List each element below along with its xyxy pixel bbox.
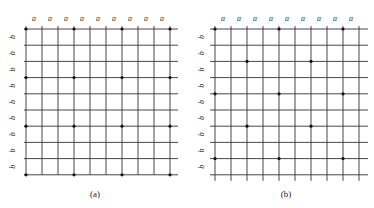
row-spacing-label: b	[8, 132, 17, 136]
lattice-point-dot	[72, 173, 75, 176]
lattice-point-dot	[120, 173, 123, 176]
column-spacing-label: a	[349, 14, 353, 23]
lattice-point-dot	[277, 157, 280, 160]
row-spacing-label: b	[8, 116, 17, 120]
row-spacing-label: b	[8, 35, 17, 39]
column-spacing-label: a	[112, 14, 116, 23]
column-spacing-label: a	[128, 14, 132, 23]
column-spacing-label: a	[317, 14, 321, 23]
column-spacing-label: a	[221, 14, 225, 23]
caption-a: (a)	[90, 189, 100, 199]
panel-a-lattice: aaaaaaaaabbbbbbbbb	[8, 14, 178, 176]
column-spacing-label: a	[32, 14, 36, 23]
row-spacing-label: b	[197, 68, 206, 72]
row-spacing-label: b	[197, 149, 206, 153]
lattice-point-dot	[72, 27, 75, 30]
column-spacing-label: a	[160, 14, 164, 23]
lattice-point-dot	[277, 92, 280, 95]
lattice-point-dot	[24, 125, 27, 128]
column-spacing-label: a	[237, 14, 241, 23]
column-spacing-label: a	[80, 14, 84, 23]
lattice-point-dot	[120, 76, 123, 79]
lattice-point-dot	[168, 76, 171, 79]
row-spacing-label: b	[8, 84, 17, 88]
column-spacing-label: a	[253, 14, 257, 23]
lattice-point-dot	[24, 173, 27, 176]
row-spacing-label: b	[8, 149, 17, 153]
lattice-point-dot	[341, 92, 344, 95]
row-spacing-label: b	[197, 100, 206, 104]
column-spacing-label: a	[144, 14, 148, 23]
column-spacing-label: a	[64, 14, 68, 23]
row-spacing-label: b	[197, 165, 206, 169]
lattice-point-dot	[309, 60, 312, 63]
lattice-point-dot	[168, 173, 171, 176]
lattice-point-dot	[120, 27, 123, 30]
lattice-point-dot	[309, 125, 312, 128]
lattice-point-dot	[213, 27, 216, 30]
lattice-point-dot	[245, 60, 248, 63]
column-spacing-label: a	[333, 14, 337, 23]
lattice-point-dot	[168, 125, 171, 128]
caption-b: (b)	[281, 189, 292, 199]
lattice-point-dot	[341, 27, 344, 30]
column-spacing-label: a	[48, 14, 52, 23]
column-spacing-label: a	[96, 14, 100, 23]
lattice-point-dot	[120, 125, 123, 128]
lattice-point-dot	[213, 92, 216, 95]
panel-b-lattice: aaaaaaaaabbbbbbbbb	[197, 14, 368, 181]
lattice-point-dot	[24, 76, 27, 79]
lattice-point-dot	[245, 125, 248, 128]
row-spacing-label: b	[197, 35, 206, 39]
column-spacing-label: a	[269, 14, 273, 23]
row-spacing-label: b	[197, 51, 206, 55]
row-spacing-label: b	[197, 132, 206, 136]
row-spacing-label: b	[197, 84, 206, 88]
lattice-point-dot	[168, 27, 171, 30]
row-spacing-label: b	[8, 165, 17, 169]
lattice-point-dot	[341, 157, 344, 160]
column-spacing-label: a	[285, 14, 289, 23]
lattice-point-dot	[213, 157, 216, 160]
lattice-point-dot	[72, 76, 75, 79]
row-spacing-label: b	[8, 68, 17, 72]
lattice-point-dot	[72, 125, 75, 128]
lattice-point-dot	[24, 27, 27, 30]
column-spacing-label: a	[301, 14, 305, 23]
row-spacing-label: b	[197, 116, 206, 120]
lattice-point-dot	[277, 27, 280, 30]
lattice-figure: aaaaaaaaabbbbbbbbb aaaaaaaaabbbbbbbbb (a…	[0, 0, 374, 208]
row-spacing-label: b	[8, 51, 17, 55]
row-spacing-label: b	[8, 100, 17, 104]
